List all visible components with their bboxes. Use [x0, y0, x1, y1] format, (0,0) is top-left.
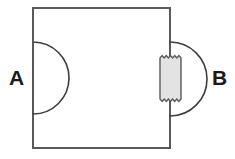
label-b: B: [212, 66, 227, 89]
shaded-torn-rectangle: [160, 56, 181, 102]
diagram-canvas: A B: [0, 0, 235, 159]
label-a: A: [9, 66, 24, 89]
diagram-svg: A B: [0, 0, 235, 159]
background-plate: [0, 0, 235, 159]
